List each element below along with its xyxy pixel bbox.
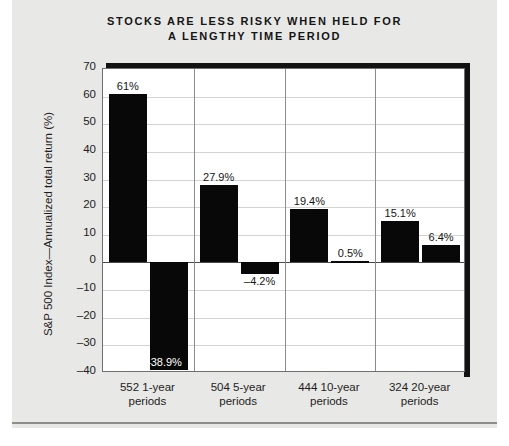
bar [331, 261, 369, 263]
y-axis-title: S&P 500 Index—Annualized total return (%… [42, 94, 54, 354]
x-axis-category-label: 552 1-yearperiods [102, 380, 193, 408]
y-axis-tick-label: 10 [60, 226, 96, 238]
bar-value-label: 0.5% [320, 247, 380, 259]
y-axis-tick-label: –40 [60, 364, 96, 376]
group-separator [375, 69, 376, 371]
y-axis-tick-label: 70 [60, 60, 96, 72]
x-axis-category-label: 504 5-yearperiods [193, 380, 284, 408]
x-axis-category-label-line: periods [193, 394, 284, 408]
gridline [103, 180, 464, 181]
group-separator [285, 69, 286, 371]
y-axis-tick-label: –10 [60, 281, 96, 293]
bar [422, 245, 460, 263]
plot-area: 61%–38.9%27.9%–4.2%19.4%0.5%15.1%6.4% [102, 68, 465, 372]
bar-value-label: –38.9% [144, 356, 182, 368]
x-axis-category-label: 324 20-yearperiods [374, 380, 465, 408]
x-axis-category-label-line: periods [374, 394, 465, 408]
bar [109, 94, 147, 263]
y-axis-tick-label: 50 [60, 115, 96, 127]
y-axis-tick-label: –20 [60, 309, 96, 321]
y-axis-tick-label: 30 [60, 171, 96, 183]
chart-page: STOCKS ARE LESS RISKY WHEN HELD FOR A LE… [0, 0, 509, 446]
x-axis-category-label-line: 444 10-year [284, 380, 375, 394]
x-axis-category-label-line: periods [102, 394, 193, 408]
x-axis-category-label-line: 552 1-year [102, 380, 193, 394]
x-axis-category-label-line: periods [284, 394, 375, 408]
chart-title: STOCKS ARE LESS RISKY WHEN HELD FOR A LE… [12, 14, 497, 44]
bar [150, 262, 188, 370]
y-axis-tick-label: 20 [60, 198, 96, 210]
bar-value-label: 6.4% [411, 231, 471, 243]
bar-value-label: 27.9% [189, 171, 249, 183]
gridline [103, 152, 464, 153]
bar [200, 185, 238, 262]
y-axis-tick-label: –30 [60, 336, 96, 348]
x-axis-category-label: 444 10-yearperiods [284, 380, 375, 408]
gridline [103, 124, 464, 125]
bar-value-label: 15.1% [370, 207, 430, 219]
bar-value-label: –4.2% [230, 275, 290, 287]
x-axis-category-label-line: 324 20-year [374, 380, 465, 394]
x-axis-category-label-line: 504 5-year [193, 380, 284, 394]
bar-value-label: 19.4% [279, 195, 339, 207]
group-separator [194, 69, 195, 371]
bar [241, 262, 279, 274]
chart-title-line-2: A LENGTHY TIME PERIOD [12, 29, 497, 44]
y-axis-tick-label: 40 [60, 143, 96, 155]
y-axis-tick-label: 0 [60, 253, 96, 265]
y-axis-tick-label: 60 [60, 88, 96, 100]
bar-value-label: 61% [98, 80, 158, 92]
gridline [103, 97, 464, 98]
chart-title-line-1: STOCKS ARE LESS RISKY WHEN HELD FOR [12, 14, 497, 29]
